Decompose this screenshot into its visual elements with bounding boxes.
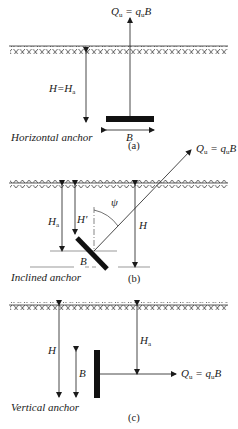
depth-a-label-c: Ha: [140, 335, 151, 348]
panel-b-inclined-anchor: [9, 150, 228, 269]
caption-a: (a): [128, 141, 140, 152]
load-arrow-b: [94, 150, 191, 251]
type-label-c: Vertical anchor: [11, 402, 79, 413]
caption-b: (b): [128, 274, 140, 285]
panel-c-vertical-anchor: [9, 302, 228, 398]
ground-hatch-b: [10, 180, 228, 188]
ground-hatch-a: [10, 46, 228, 54]
depth-label-b: H: [139, 220, 147, 231]
anchor-plate-a: [106, 116, 154, 122]
angle-arc-b: [94, 210, 118, 226]
depth-label-c: H: [48, 345, 56, 356]
caption-c: (c): [128, 413, 140, 424]
depth-label-a: H=Ha: [49, 83, 75, 96]
anchor-diagram: [0, 0, 238, 429]
depth-a-label-b: Ha: [48, 216, 59, 229]
load-label-c: Qu = quB: [181, 368, 221, 381]
load-label-a: Qu = quB: [111, 6, 151, 19]
panel-a-horizontal-anchor: [9, 18, 228, 130]
anchor-plate-c: [94, 350, 100, 398]
type-label-b: Inclined anchor: [11, 272, 81, 283]
angle-label-b: ψ: [111, 197, 118, 208]
depth-prime-label-b: H′: [77, 214, 87, 225]
load-label-b: Qu = quB: [196, 143, 236, 156]
ground-hatch-c: [10, 302, 228, 310]
type-label-a: Horizontal anchor: [11, 132, 93, 143]
width-label-b: B: [80, 256, 87, 267]
width-label-c: B: [79, 368, 86, 379]
